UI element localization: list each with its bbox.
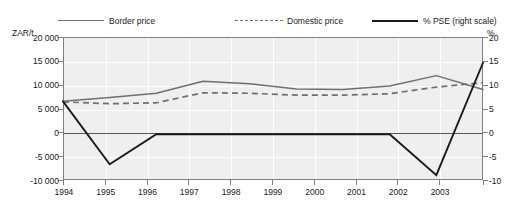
tick-x-3 (188, 180, 189, 185)
ylabel-right-m5: -5 (489, 152, 515, 162)
ylabel-left-0: 0 (3, 128, 59, 138)
xlabel-2003: 2003 (419, 187, 461, 197)
tick-x-0 (63, 180, 64, 185)
tick-right-0 (483, 37, 488, 38)
tick-x-8 (397, 180, 398, 185)
tick-right-5 (483, 156, 488, 157)
xlabel-1998: 1998 (210, 187, 252, 197)
line-border-price (63, 76, 483, 102)
xlabel-1999: 1999 (252, 187, 294, 197)
pse-chart: Border price Domestic price % PSE (right… (0, 0, 518, 209)
ylabel-right-m10: -10 (489, 176, 515, 186)
legend-swatch-border-price (58, 17, 104, 25)
ylabel-left-20000: 20 000 (3, 33, 59, 43)
tick-x-9 (439, 180, 440, 185)
ylabel-right-0: 0 (489, 128, 515, 138)
ylabel-left-m5000: -5 000 (3, 152, 59, 162)
tick-x-6 (314, 180, 315, 185)
ylabel-right-20: 20 (489, 33, 515, 43)
xlabel-1995: 1995 (85, 187, 127, 197)
tick-x-2 (147, 180, 148, 185)
ylabel-right-10: 10 (489, 80, 515, 90)
tick-x-1 (105, 180, 106, 185)
legend-entry-domestic-price: Domestic price (236, 13, 343, 29)
tick-x-7 (356, 180, 357, 185)
xlabel-1996: 1996 (127, 187, 169, 197)
ylabel-right-5: 5 (489, 104, 515, 114)
xlabel-2000: 2000 (294, 187, 336, 197)
legend-entry-pse: % PSE (right scale) (372, 13, 497, 29)
xlabel-2002: 2002 (377, 187, 419, 197)
ylabel-left-m10000: -10 000 (3, 176, 59, 186)
ylabel-left-15000: 15 000 (3, 56, 59, 66)
series-layer (63, 37, 483, 180)
tick-right-2 (483, 85, 488, 86)
ylabel-right-15: 15 (489, 56, 515, 66)
xlabel-2001: 2001 (336, 187, 378, 197)
tick-right-1 (483, 61, 488, 62)
legend-swatch-domestic-price (236, 17, 282, 25)
tick-x-4 (230, 180, 231, 185)
ylabel-left-10000: 10 000 (3, 80, 59, 90)
chart-legend: Border price Domestic price % PSE (right… (0, 13, 518, 29)
ylabel-left-5000: 5 000 (3, 104, 59, 114)
tick-right-4 (483, 132, 488, 133)
xlabel-1994: 1994 (43, 187, 85, 197)
legend-entry-border-price: Border price (58, 13, 155, 29)
tick-x-5 (272, 180, 273, 185)
legend-label-pse: % PSE (right scale) (423, 13, 497, 29)
legend-label-domestic-price: Domestic price (287, 13, 343, 29)
tick-x-10 (483, 180, 484, 185)
tick-right-3 (483, 109, 488, 110)
legend-swatch-pse (372, 17, 418, 25)
legend-label-border-price: Border price (109, 13, 155, 29)
xlabel-1997: 1997 (168, 187, 210, 197)
